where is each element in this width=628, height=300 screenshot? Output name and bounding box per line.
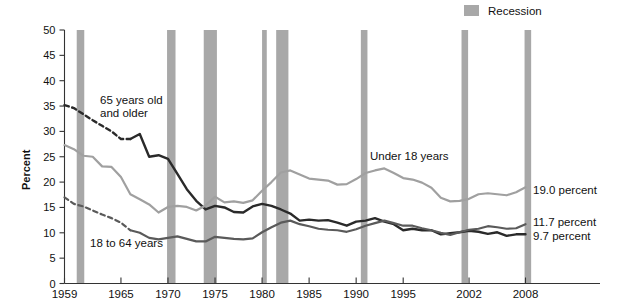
series-label-under-18: Under 18 years: [370, 150, 449, 162]
recession-band: [361, 30, 368, 284]
recession-band: [525, 30, 532, 284]
y-tick-label: 25: [43, 151, 55, 163]
x-tick-label: 1995: [390, 288, 416, 300]
x-tick-label: 1959: [52, 288, 78, 300]
end-label-65-and-older: 9.7 percent: [533, 230, 591, 242]
poverty-rate-line-chart: 05101520253035404550 1959196519701975198…: [0, 0, 628, 300]
chart-canvas: 05101520253035404550 1959196519701975198…: [0, 0, 628, 300]
series-label-65-and-older-line1: 65 years old: [100, 94, 163, 106]
series-line-1: [65, 145, 526, 212]
y-tick-label: 45: [43, 49, 55, 61]
series-line-dashed-2: [65, 197, 131, 230]
x-tick-label: 1985: [296, 288, 322, 300]
y-axis-title: Percent: [20, 149, 32, 190]
y-tick-label: 35: [43, 100, 55, 112]
x-tick-label: 1990: [343, 288, 369, 300]
end-value-labels-group: 19.0 percent 11.7 percent 9.7 percent: [533, 184, 598, 242]
series-label-18-to-64: 18 to 64 years: [90, 237, 163, 249]
x-tick-label: 1970: [155, 288, 181, 300]
y-tick-label: 50: [43, 24, 55, 36]
recession-band: [204, 30, 217, 284]
recession-band: [462, 30, 469, 284]
series-label-65-and-older-line2: and older: [100, 107, 148, 119]
y-tick-label: 10: [43, 227, 55, 239]
x-tick-label: 1980: [249, 288, 275, 300]
legend-swatch-recession: [464, 5, 479, 16]
x-tick-label: 1975: [202, 288, 228, 300]
y-tick-label: 20: [43, 176, 55, 188]
x-tick-label: 1965: [108, 288, 134, 300]
y-tick-label: 15: [43, 201, 55, 213]
end-label-under-18: 19.0 percent: [533, 184, 598, 196]
y-tick-label: 5: [49, 252, 55, 264]
end-label-18-to-64: 11.7 percent: [533, 216, 597, 228]
recession-band: [167, 30, 175, 284]
legend-label-recession: Recession: [488, 5, 542, 17]
recession-band: [276, 30, 288, 284]
y-axis: 05101520253035404550: [43, 24, 64, 290]
x-tick-label: 2002: [456, 288, 482, 300]
recession-band: [262, 30, 267, 284]
x-tick-label: 2008: [513, 288, 539, 300]
chart-legend: Recession: [464, 5, 542, 17]
y-tick-label: 40: [43, 75, 55, 87]
y-tick-label: 30: [43, 125, 55, 137]
x-axis: 1959196519701975198019851990199520022008: [52, 278, 600, 300]
series-lines-group: [65, 105, 526, 241]
